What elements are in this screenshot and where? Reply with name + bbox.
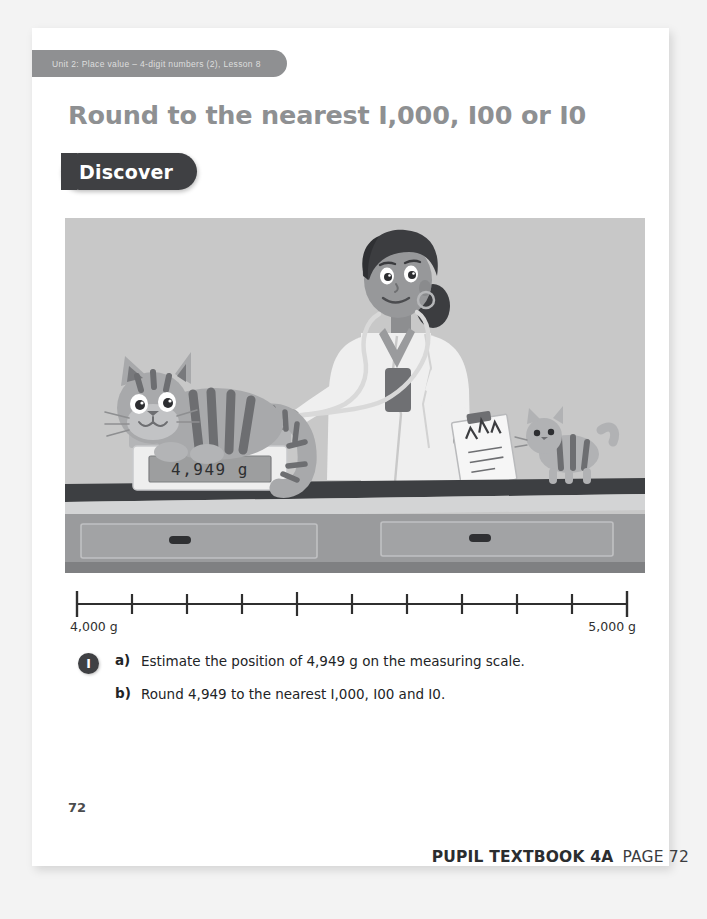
counter-base-shadow [65,562,645,573]
cat-paw-back [190,444,224,464]
kitten-head [526,418,562,454]
textbook-page-sheet: Unit 2: Place value – 4-digit numbers (2… [32,28,669,866]
kitten-leg-1 [549,468,557,484]
page-number: 72 [68,800,86,815]
question-number-badge: I [78,653,99,674]
number-line-right-label: 5,000 g [588,619,636,634]
footer-book-title: PUPIL TEXTBOOK 4A [432,848,614,866]
vet-scene-svg: 4,949 g [65,218,645,573]
footer-source-line: PUPIL TEXTBOOK 4A PAGE 72 [432,848,689,866]
question-text-a: Estimate the position of 4,949 g on the … [141,652,525,670]
footer-page-ref: PAGE 72 [622,848,689,866]
unit-breadcrumb-label: Unit 2: Place value – 4-digit numbers (2… [52,59,261,69]
kitten-leg-2 [565,470,573,484]
drawer-right [381,522,613,556]
drawer-handle-left [169,536,191,544]
kitten-leg-3 [583,468,591,484]
question-row-a: I a) Estimate the position of 4,949 g on… [78,652,618,674]
discover-section-badge: Discover [61,153,197,190]
discover-label: Discover [79,161,173,183]
question-letter-b: b) [115,685,141,701]
question-list: I a) Estimate the position of 4,949 g on… [78,652,618,714]
question-letter-a: a) [115,652,141,668]
question-text-b: Round 4,949 to the nearest I,000, I00 an… [141,685,445,703]
kitten-eye-left [534,430,540,436]
question-row-b: b) Round 4,949 to the nearest I,000, I00… [78,685,618,703]
number-line-left-label: 4,000 g [70,619,118,634]
number-line-svg [72,586,632,620]
measuring-scale-number-line: 4,000 g 5,000 g [72,586,632,644]
kitten-eye-right [548,429,554,435]
unit-breadcrumb-tab: Unit 2: Place value – 4-digit numbers (2… [32,50,287,77]
cat-paw-front [154,442,188,462]
drawer-left [81,524,317,558]
page-title: Round to the nearest I,000, I00 or I0 [68,100,586,130]
lesson-illustration: 4,949 g [65,218,645,573]
drawer-handle-right [469,534,491,542]
